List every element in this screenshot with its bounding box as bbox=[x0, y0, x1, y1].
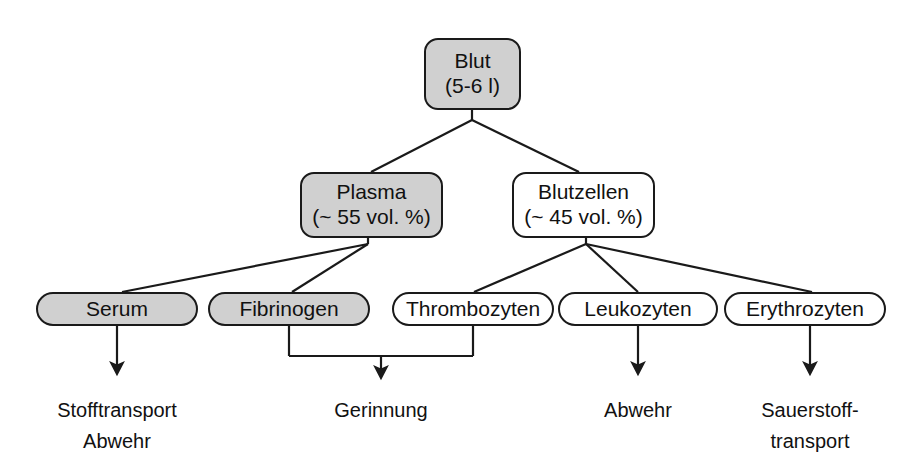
blood-composition-diagram: Blut (5-6 l) Plasma (~ 55 vol. %) Blutze… bbox=[0, 0, 916, 475]
node-erythrozyten-label: Erythrozyten bbox=[746, 297, 864, 322]
node-thrombozyten-label: Thrombozyten bbox=[406, 297, 540, 322]
node-plasma-volume: (~ 55 vol. %) bbox=[312, 205, 430, 230]
node-plasma[interactable]: Plasma (~ 55 vol. %) bbox=[300, 172, 443, 238]
node-serum-label: Serum bbox=[86, 297, 148, 322]
outcome-erythrozyten-function: Sauerstoff- transport bbox=[730, 395, 890, 457]
node-blutzellen[interactable]: Blutzellen (~ 45 vol. %) bbox=[512, 172, 655, 238]
node-blut-label: Blut bbox=[454, 49, 490, 74]
node-blut-volume: (5-6 l) bbox=[445, 74, 500, 99]
edge-blut-to-level2 bbox=[371, 110, 579, 172]
node-thrombozyten[interactable]: Thrombozyten bbox=[392, 292, 554, 326]
node-leukozyten-label: Leukozyten bbox=[584, 297, 691, 322]
node-plasma-label: Plasma bbox=[336, 180, 406, 205]
outcome-leukozyten-function: Abwehr bbox=[558, 395, 718, 426]
node-blutzellen-label: Blutzellen bbox=[538, 180, 629, 205]
node-blut[interactable]: Blut (5-6 l) bbox=[424, 38, 521, 110]
node-serum[interactable]: Serum bbox=[36, 292, 198, 326]
edge-blutzellen-to-children bbox=[474, 238, 812, 292]
node-erythrozyten[interactable]: Erythrozyten bbox=[724, 292, 886, 326]
node-blutzellen-volume: (~ 45 vol. %) bbox=[524, 205, 642, 230]
outcome-gerinnung: Gerinnung bbox=[291, 395, 471, 426]
node-fibrinogen[interactable]: Fibrinogen bbox=[208, 292, 370, 326]
outcome-serum-function: Stofftransport Abwehr bbox=[17, 395, 217, 457]
edge-plasma-to-children bbox=[122, 238, 368, 292]
arrow-gerinnung-merge bbox=[289, 326, 473, 372]
node-fibrinogen-label: Fibrinogen bbox=[239, 297, 338, 322]
node-leukozyten[interactable]: Leukozyten bbox=[558, 292, 718, 326]
